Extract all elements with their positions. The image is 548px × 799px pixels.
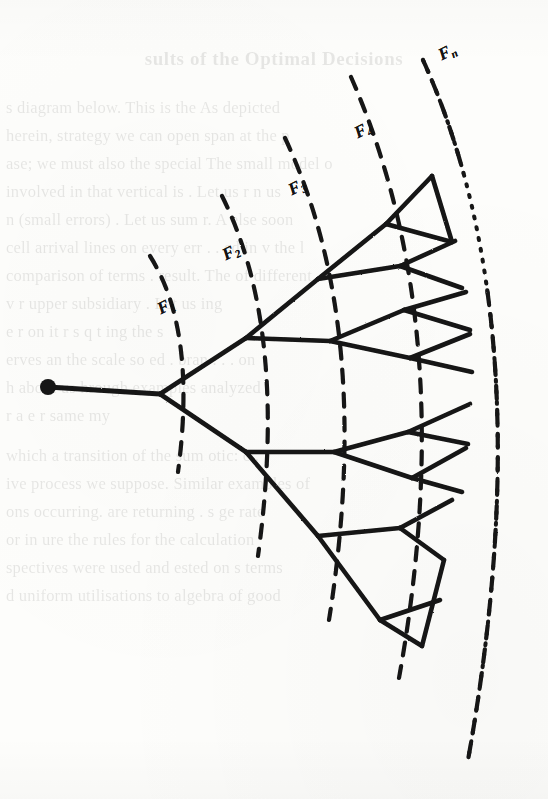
boundary-arc-F3 <box>285 138 345 620</box>
boundary-arcs <box>150 60 498 760</box>
tree-edges <box>160 176 472 646</box>
tree-edge <box>386 224 452 242</box>
root-stem <box>48 387 160 394</box>
tree-edge <box>160 338 246 394</box>
tree-edge <box>246 452 318 536</box>
tree-edge <box>408 432 468 444</box>
scanned-page: sults of the Optimal Decisions s diagram… <box>0 0 548 799</box>
tree-edge <box>400 241 455 266</box>
tree-edge <box>318 536 380 620</box>
tree-edge <box>400 500 452 528</box>
boundary-arc-F1 <box>150 256 183 472</box>
tree-edge <box>380 620 422 646</box>
tree-edge <box>246 338 330 341</box>
boundary-arc-F4 <box>351 77 422 678</box>
fan-decision-tree-figure <box>0 0 548 799</box>
tree-edge <box>246 279 318 338</box>
tree-edge <box>330 310 404 341</box>
tree-edge <box>318 528 400 536</box>
tree-edge <box>400 528 444 560</box>
tree-edge <box>432 176 452 242</box>
tree-edge <box>160 394 246 452</box>
tree-edge <box>408 404 470 432</box>
